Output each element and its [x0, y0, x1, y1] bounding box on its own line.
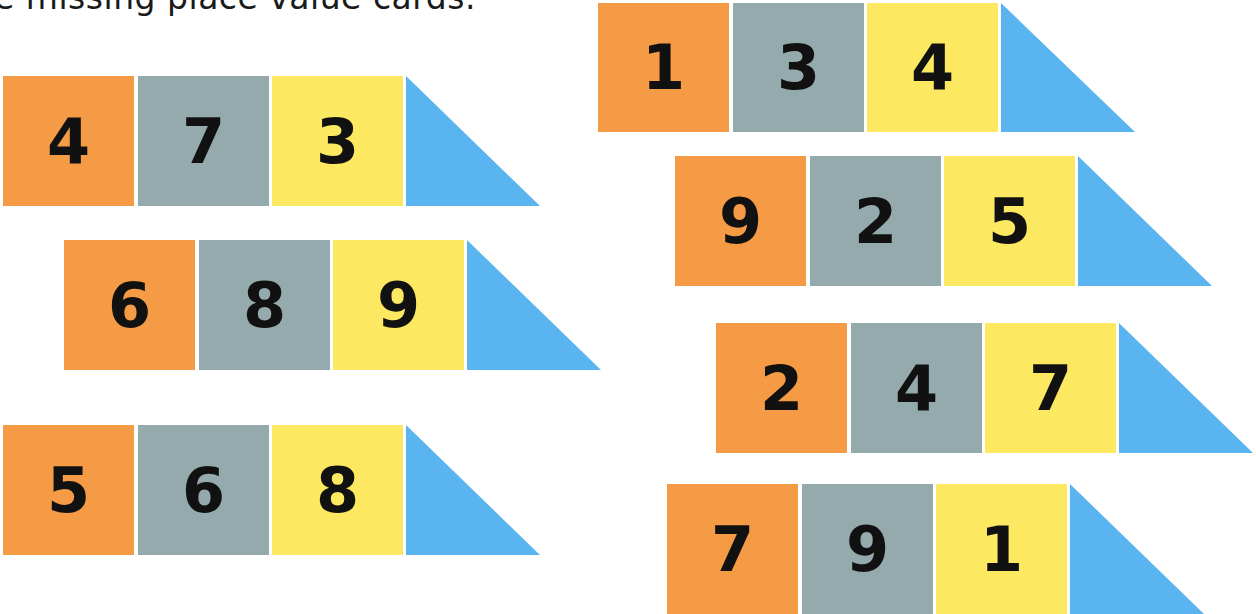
ones-card: 9	[333, 240, 464, 370]
hundreds-card: 1	[598, 3, 729, 132]
missing-card-triangle[interactable]	[406, 76, 540, 206]
tens-card: 2	[810, 156, 941, 286]
hundreds-card: 4	[3, 76, 134, 206]
missing-card-triangle[interactable]	[1119, 323, 1253, 453]
hundreds-card: 9	[675, 156, 806, 286]
missing-card-triangle[interactable]	[1078, 156, 1212, 286]
ones-card: 5	[944, 156, 1075, 286]
tens-card: 7	[138, 76, 269, 206]
tens-card: 4	[851, 323, 982, 453]
ones-card: 1	[936, 484, 1067, 614]
hundreds-card: 7	[667, 484, 798, 614]
ones-card: 7	[985, 323, 1116, 453]
hundreds-card: 2	[716, 323, 847, 453]
missing-card-triangle[interactable]	[406, 425, 540, 555]
hundreds-card: 6	[64, 240, 195, 370]
instruction-text: e missing place value cards.	[0, 0, 476, 17]
tens-card: 3	[733, 3, 864, 132]
tens-card: 6	[138, 425, 269, 555]
tens-card: 9	[802, 484, 933, 614]
tens-card: 8	[199, 240, 330, 370]
ones-card: 8	[272, 425, 403, 555]
hundreds-card: 5	[3, 425, 134, 555]
ones-card: 3	[272, 76, 403, 206]
missing-card-triangle[interactable]	[1001, 3, 1135, 132]
missing-card-triangle[interactable]	[1070, 484, 1204, 614]
missing-card-triangle[interactable]	[467, 240, 601, 370]
ones-card: 4	[867, 3, 998, 132]
